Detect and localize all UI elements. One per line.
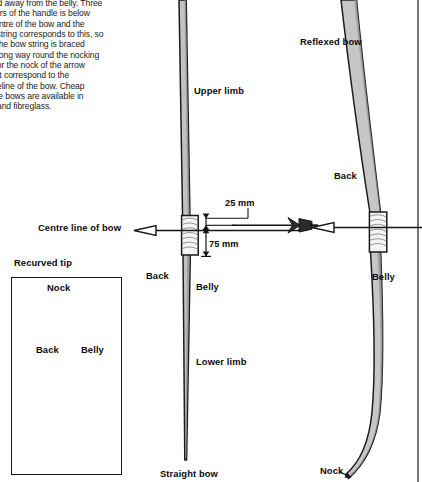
label-straight-bow: Straight bow xyxy=(160,469,218,478)
inset-caption-recurved-tip: Recurved tip xyxy=(14,258,72,267)
dimension-75mm: 75 mm xyxy=(209,240,239,249)
label-belly-reflexed-bow: Belly xyxy=(372,272,395,281)
label-nock-recurved-tip: Nock xyxy=(47,283,70,292)
label-back-centre-bow: Back xyxy=(146,271,169,280)
recurved-tip-inset-box xyxy=(11,277,122,475)
bow-handle-paragraph: red away from the belly. Three rters of … xyxy=(0,0,140,112)
reflexed-bow-lower-limb xyxy=(346,250,383,479)
dimension-25mm: 25 mm xyxy=(225,199,255,208)
label-belly-recurved-tip: Belly xyxy=(81,345,104,354)
label-back-recurved-tip: Back xyxy=(36,345,59,354)
reflexed-bow-grip xyxy=(369,212,386,252)
diagram-canvas: red away from the belly. Three rters of … xyxy=(0,0,422,482)
dimension-25mm-leader xyxy=(203,208,248,230)
label-nock-reflexed-bow: Nock xyxy=(320,466,343,475)
straight-bow-grip xyxy=(182,216,199,256)
label-belly-centre-bow: Belly xyxy=(196,282,219,291)
reflexed-bow-centre-line-arrow xyxy=(312,223,422,233)
label-centre-line-of-bow: Centre line of bow xyxy=(38,223,121,232)
label-back-reflexed-bow: Back xyxy=(334,171,357,180)
reflexed-bow-group xyxy=(312,0,422,482)
straight-bow-group xyxy=(134,0,318,460)
label-lower-limb: Lower limb xyxy=(196,357,246,366)
label-upper-limb: Upper limb xyxy=(194,86,244,95)
label-reflexed-bow: Reflexed bow xyxy=(300,37,362,46)
centre-line-of-bow-arrow xyxy=(134,226,300,236)
reflexed-bow-upper-limb xyxy=(341,0,381,213)
